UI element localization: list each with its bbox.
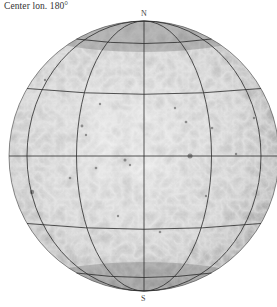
globe-map: [0, 0, 277, 307]
planet-surface: [9, 8, 277, 306]
